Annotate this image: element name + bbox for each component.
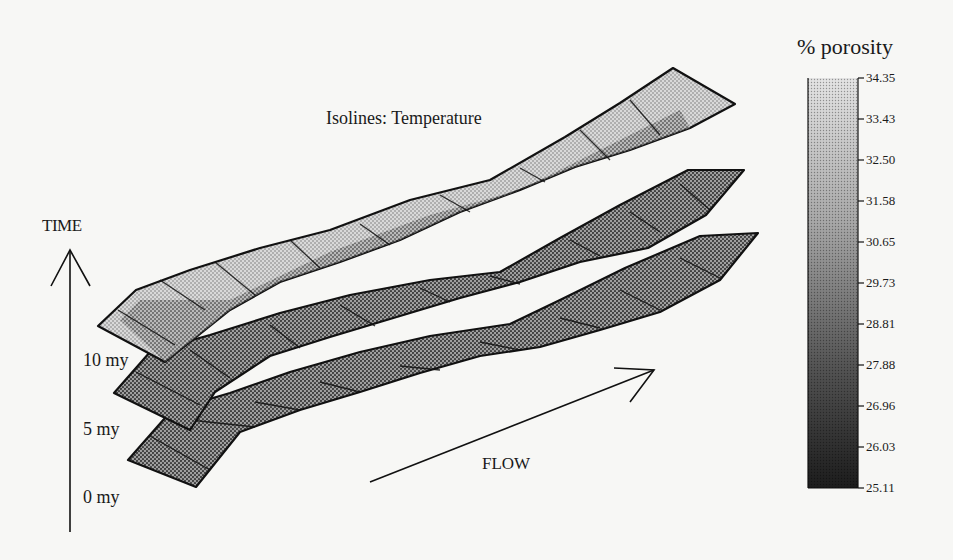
time-tick-0-my: 0 my (83, 487, 120, 508)
colorbar-tick: 28.81 (866, 316, 895, 332)
colorbar-tick: 29.73 (866, 275, 895, 291)
figure-title: Isolines: Temperature (326, 108, 482, 129)
colorbar-tick: 30.65 (866, 234, 895, 250)
flow-label: FLOW (482, 454, 530, 474)
time-axis-label: TIME (42, 216, 82, 236)
colorbar-tick: 25.11 (866, 480, 895, 496)
colorbar-tick: 33.43 (866, 111, 895, 127)
colorbar-tick: 34.35 (866, 70, 895, 86)
colorbar-title: % porosity (797, 34, 893, 60)
time-tick-5-my: 5 my (83, 419, 120, 440)
colorbar-tick: 32.50 (866, 152, 895, 168)
porosity-colorbar (808, 78, 864, 488)
time-tick-10-my: 10 my (83, 350, 129, 371)
colorbar-tick: 27.88 (866, 357, 895, 373)
colorbar-tick: 31.58 (866, 193, 895, 209)
figure-canvas (0, 0, 953, 560)
colorbar-tick: 26.96 (866, 398, 895, 414)
colorbar-tick: 26.03 (866, 439, 895, 455)
